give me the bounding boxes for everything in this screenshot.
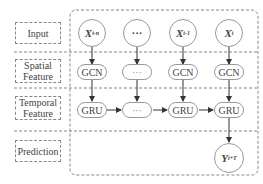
row-label-temporal-line1: Temporal — [19, 97, 57, 108]
gru-node-ellipsis: ··· — [122, 102, 152, 118]
gcn-node-1: GCN — [77, 64, 107, 80]
input-node-t-1: Xt-1 — [169, 19, 197, 47]
row-label-spatial-line2: Feature — [23, 71, 53, 82]
input-node-base: ··· — [131, 27, 142, 39]
gcn-node-3: GCN — [168, 64, 198, 80]
output-node-base: Y — [221, 152, 228, 164]
gcn-node-4: GCN — [214, 64, 244, 80]
input-node-ellipsis: ··· — [123, 19, 151, 47]
row-label-prediction: Prediction — [15, 140, 61, 162]
input-node-sub: t — [232, 30, 234, 36]
row-label-input-text: Input — [27, 28, 48, 39]
output-node-sub: t+T — [228, 155, 237, 161]
gcn-label: ··· — [132, 67, 142, 78]
gcn-label: GCN — [172, 67, 193, 78]
input-node-t: Xt — [215, 19, 243, 47]
input-node-base: X — [85, 27, 92, 39]
gcn-label: GCN — [81, 67, 102, 78]
input-node-base: X — [176, 27, 183, 39]
input-node-sub: t-1 — [183, 30, 190, 36]
gru-node-4: GRU — [214, 102, 244, 118]
row-label-temporal: TemporalFeature — [15, 96, 61, 120]
gru-label: GRU — [81, 105, 102, 116]
gru-node-1: GRU — [77, 102, 107, 118]
row-label-spatial-line1: Spatial — [24, 60, 52, 71]
gru-label: ··· — [132, 105, 142, 116]
gru-node-3: GRU — [168, 102, 198, 118]
gcn-node-ellipsis: ··· — [122, 64, 152, 80]
row-label-prediction-text: Prediction — [17, 146, 58, 157]
input-node-base: X — [224, 27, 231, 39]
output-node: Yt+T — [214, 143, 244, 173]
gru-label: GRU — [218, 105, 239, 116]
row-label-temporal-line2: Feature — [23, 108, 53, 119]
input-node-sub: t-n — [92, 30, 99, 36]
input-node-t-n: Xt-n — [78, 19, 106, 47]
gcn-label: GCN — [218, 67, 239, 78]
gru-label: GRU — [172, 105, 193, 116]
row-label-input: Input — [15, 22, 61, 44]
row-label-spatial: SpatialFeature — [15, 59, 61, 83]
